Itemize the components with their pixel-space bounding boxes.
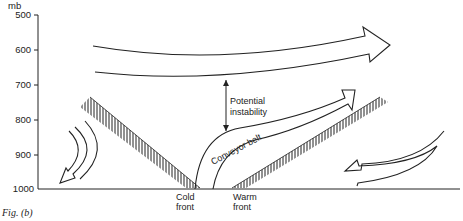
tick-500: 500 (15, 9, 31, 20)
conveyor-label: Conveyor belt (209, 132, 263, 167)
figure-caption: Fig. (b) (1, 207, 33, 219)
conveyor-belt-arrow (195, 90, 355, 189)
right-descending-arrow (345, 131, 444, 186)
cold-front-label-1: Cold (176, 192, 195, 202)
left-descending-arrow (60, 127, 87, 183)
frontal-diagram: mb 500 600 700 800 900 1000 Potential in… (0, 0, 463, 221)
potential-instability-arrow (223, 80, 229, 131)
potential-label-2: instability (230, 107, 268, 117)
tick-700: 700 (15, 79, 31, 90)
cold-front-band (80, 97, 200, 188)
pressure-axis: mb 500 600 700 800 900 1000 (8, 0, 38, 194)
tick-1000: 1000 (13, 183, 34, 194)
tick-600: 600 (15, 44, 31, 55)
upper-flow-arrow (93, 27, 390, 76)
warm-front-label-1: Warm (233, 192, 257, 202)
warm-front-label-2: front (233, 202, 252, 212)
potential-label-1: Potential (230, 96, 265, 106)
tick-900: 900 (15, 149, 31, 160)
cold-front-label-2: front (176, 202, 195, 212)
tick-800: 800 (15, 114, 31, 125)
